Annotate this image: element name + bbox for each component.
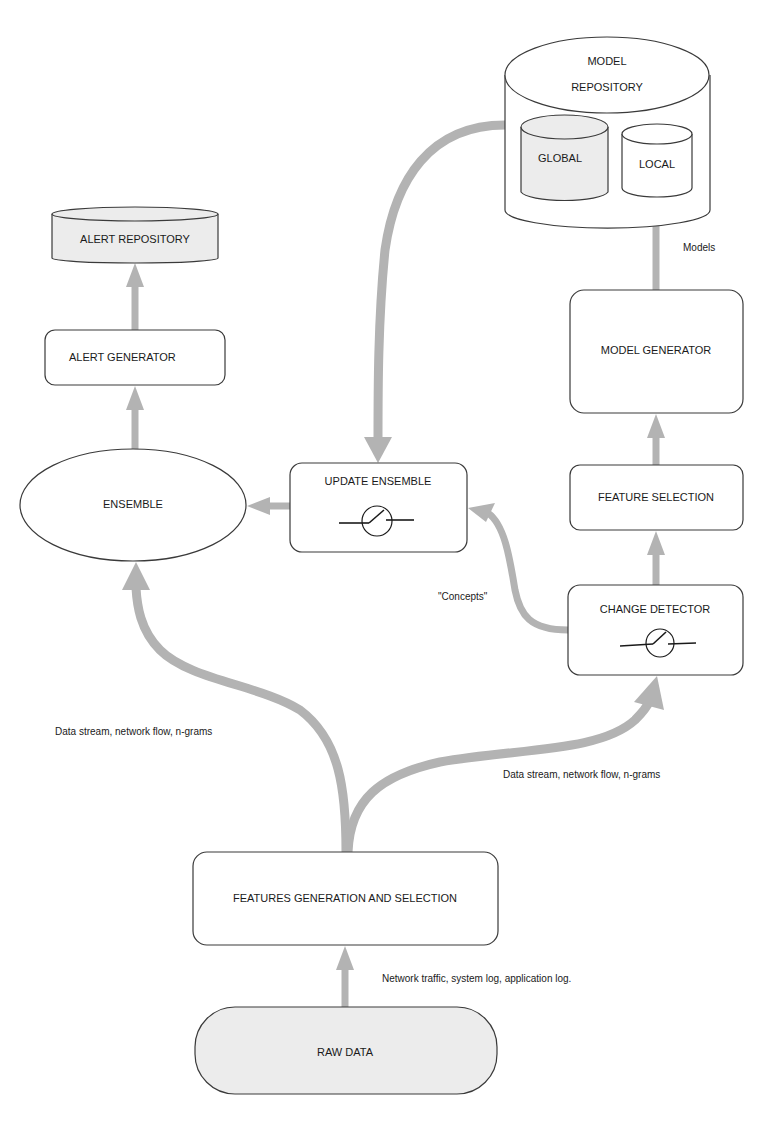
arrow-ensemble-to-alert-generator: [126, 386, 144, 450]
raw-data-label: RAW DATA: [317, 1046, 374, 1058]
feature-selection-node: FEATURE SELECTION: [570, 465, 743, 530]
alert-generator-label: ALERT GENERATOR: [69, 351, 176, 363]
raw-input-edge-label: Network traffic, system log, application…: [382, 973, 571, 984]
local-label: LOCAL: [639, 158, 675, 170]
arrow-update-ensemble-to-ensemble: [247, 497, 290, 515]
model-generator-node: MODEL GENERATOR: [570, 290, 743, 413]
stream-right-edge-label: Data stream, network flow, n-grams: [503, 769, 660, 780]
ensemble-label: ENSEMBLE: [103, 498, 163, 510]
alert-repository-label: ALERT REPOSITORY: [80, 233, 191, 245]
arrow-change-detector-to-update-ensemble: [468, 503, 568, 630]
model-repository-label-1: MODEL: [587, 55, 626, 67]
change-detector-label: CHANGE DETECTOR: [600, 603, 710, 615]
arrow-alert-generator-to-repository: [126, 263, 144, 330]
update-ensemble-label: UPDATE ENSEMBLE: [325, 475, 432, 487]
models-edge-label: Models: [683, 242, 715, 253]
concepts-edge-label: "Concepts": [438, 591, 488, 602]
stream-left-edge-label: Data stream, network flow, n-grams: [55, 726, 212, 737]
arrow-raw-data-to-features: [336, 946, 354, 1007]
arrow-features-to-change-detector: [348, 676, 664, 852]
global-label: GLOBAL: [538, 152, 582, 164]
update-ensemble-node: UPDATE ENSEMBLE: [290, 463, 467, 552]
features-generation-node: FEATURES GENERATION AND SELECTION: [193, 852, 498, 945]
local-model-store: LOCAL: [622, 124, 692, 197]
change-detector-node: CHANGE DETECTOR: [568, 585, 743, 675]
alert-repository-node: ALERT REPOSITORY: [52, 207, 218, 263]
model-generator-label: MODEL GENERATOR: [601, 344, 711, 356]
arrow-feature-selection-to-model-generator: [647, 414, 665, 465]
arrow-change-detector-to-feature-selection: [647, 531, 665, 585]
features-generation-label: FEATURES GENERATION AND SELECTION: [233, 892, 457, 904]
global-model-store: GLOBAL: [521, 115, 608, 200]
arrow-features-to-ensemble: [122, 562, 346, 852]
alert-generator-node: ALERT GENERATOR: [45, 330, 225, 385]
raw-data-node: RAW DATA: [195, 1007, 497, 1094]
architecture-diagram: MODEL REPOSITORY GLOBAL LOCAL ALERT REPO…: [0, 0, 783, 1136]
arrow-repository-to-update-ensemble: [364, 125, 505, 463]
model-repository-label-2: REPOSITORY: [571, 81, 643, 93]
feature-selection-label: FEATURE SELECTION: [598, 491, 714, 503]
model-repository-node: MODEL REPOSITORY GLOBAL LOCAL: [505, 37, 710, 228]
ensemble-node: ENSEMBLE: [20, 449, 246, 561]
